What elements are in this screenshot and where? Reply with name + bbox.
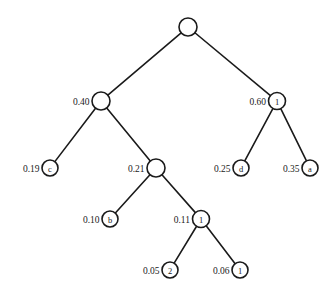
node-weight-n010: 0.10 <box>83 215 100 225</box>
node-circle-root[interactable] <box>179 18 197 36</box>
node-weight-n060: 0.60 <box>249 97 266 107</box>
tree-node-n025[interactable]: d0.25 <box>214 160 249 176</box>
node-weight-n025: 0.25 <box>214 164 231 174</box>
node-weight-n011: 0.11 <box>174 215 191 225</box>
tree-edge-n021-to-n011 <box>162 175 195 213</box>
tree-edge-n021-to-n010 <box>115 175 150 213</box>
tree-node-n010[interactable]: b0.10 <box>83 211 118 227</box>
node-label-n011: 1 <box>199 215 203 225</box>
node-label-n010: b <box>108 215 112 225</box>
tree-edge-n060-to-n035 <box>281 109 307 161</box>
tree-node-n006[interactable]: 10.06 <box>213 262 248 278</box>
node-label-n019: c <box>48 164 52 174</box>
tree-node-n060[interactable]: 10.60 <box>249 93 285 110</box>
tree-node-n021[interactable]: 0.21 <box>128 159 165 177</box>
node-label-n035: a <box>308 164 312 174</box>
tree-node-n019[interactable]: c0.19 <box>23 160 58 176</box>
tree-nodes-group: 0.4010.60c0.190.21d0.25a0.35b0.1010.1120… <box>23 18 318 278</box>
tree-edge-n060-to-n025 <box>245 108 273 160</box>
node-weight-n021: 0.21 <box>128 164 145 174</box>
tree-diagram-canvas: 0.4010.60c0.190.21d0.25a0.35b0.1010.1120… <box>0 0 336 293</box>
tree-diagram-svg: 0.4010.60c0.190.21d0.25a0.35b0.1010.1120… <box>0 0 336 293</box>
node-label-n060: 1 <box>275 97 279 107</box>
node-weight-n006: 0.06 <box>213 266 230 276</box>
node-label-n006: 1 <box>238 266 242 276</box>
tree-edge-n011-to-n005 <box>174 226 196 263</box>
node-weight-n035: 0.35 <box>283 164 300 174</box>
tree-node-n040[interactable]: 0.40 <box>73 92 110 110</box>
node-circle-n021[interactable] <box>147 159 165 177</box>
tree-node-n011[interactable]: 10.11 <box>174 211 210 228</box>
tree-edge-root-to-n060 <box>195 33 271 96</box>
node-circle-n040[interactable] <box>92 92 110 110</box>
node-weight-n040: 0.40 <box>73 97 90 107</box>
tree-edges-group <box>55 33 307 264</box>
tree-edge-root-to-n040 <box>108 33 181 95</box>
node-weight-n019: 0.19 <box>23 164 40 174</box>
node-weight-n005: 0.05 <box>143 266 160 276</box>
tree-node-n005[interactable]: 20.05 <box>143 262 178 278</box>
tree-node-root[interactable] <box>179 18 197 36</box>
tree-edge-n040-to-n019 <box>55 108 96 161</box>
tree-node-n035[interactable]: a0.35 <box>283 160 318 176</box>
node-label-n005: 2 <box>168 266 172 276</box>
tree-edge-n011-to-n006 <box>206 226 235 264</box>
tree-edge-n040-to-n021 <box>107 108 151 161</box>
